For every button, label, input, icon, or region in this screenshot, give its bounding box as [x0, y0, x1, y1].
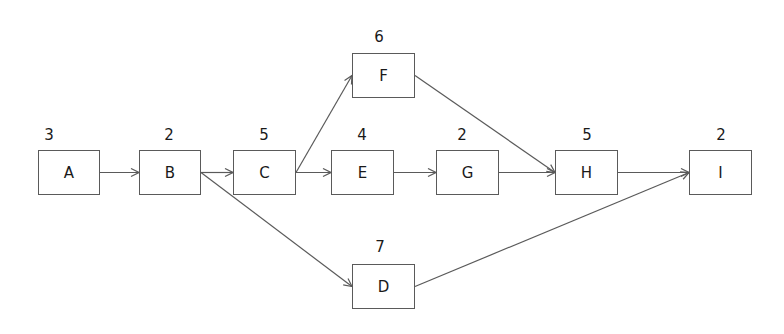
duration-label-g: 2 — [442, 126, 482, 144]
node-i[interactable]: I — [689, 150, 752, 195]
duration-label-c: 5 — [244, 126, 284, 144]
node-e[interactable]: E — [331, 150, 394, 195]
node-g-label: G — [462, 164, 474, 182]
node-c[interactable]: C — [233, 150, 296, 195]
node-h-label: H — [581, 164, 592, 182]
node-f-label: F — [379, 67, 388, 85]
node-a[interactable]: A — [38, 150, 100, 195]
node-b-label: B — [165, 164, 175, 182]
duration-label-i: 2 — [701, 126, 741, 144]
node-e-label: E — [358, 164, 367, 182]
duration-label-f: 6 — [359, 28, 399, 46]
duration-label-e: 4 — [342, 126, 382, 144]
node-a-label: A — [64, 164, 74, 182]
node-d-label: D — [378, 278, 390, 296]
node-d[interactable]: D — [352, 264, 415, 309]
duration-label-d: 7 — [360, 238, 400, 256]
duration-label-a: 3 — [29, 126, 69, 144]
node-h[interactable]: H — [555, 150, 618, 195]
node-c-label: C — [259, 164, 269, 182]
duration-label-b: 2 — [149, 126, 189, 144]
duration-label-h: 5 — [567, 126, 607, 144]
network-diagram: 3 A 2 B 5 C 4 E 2 G 5 H 2 I 6 F 7 D — [0, 0, 784, 334]
node-i-label: I — [718, 164, 722, 182]
node-f[interactable]: F — [352, 53, 415, 98]
node-b[interactable]: B — [139, 150, 201, 195]
node-g[interactable]: G — [436, 150, 499, 195]
